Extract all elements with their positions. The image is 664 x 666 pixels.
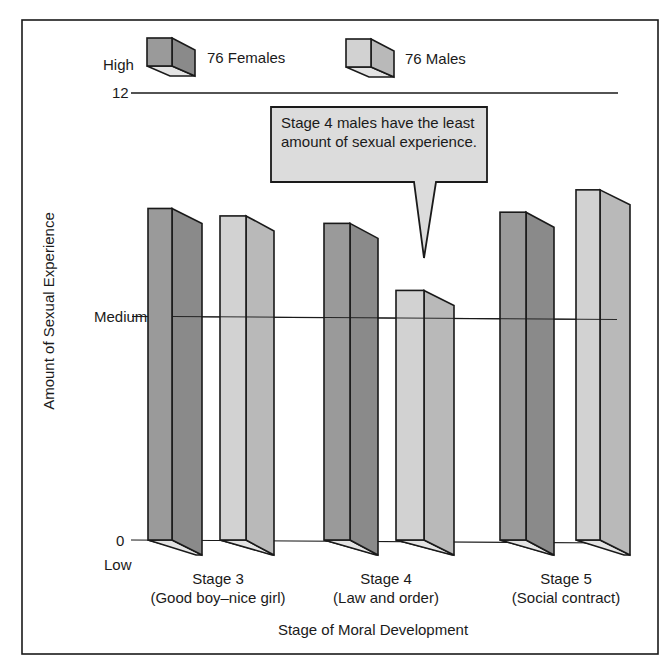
bar-side-face	[246, 216, 274, 555]
y-tick-0: 0	[116, 532, 124, 549]
legend-female-swatch-front	[147, 38, 172, 66]
bar-side-face	[600, 190, 630, 555]
category-desc-label: (Social contract)	[512, 588, 620, 607]
bar-front-face	[220, 216, 246, 540]
bar-side-face	[526, 212, 554, 555]
y-axis-title: Amount of Sexual Experience	[40, 212, 57, 410]
bar-front-face	[324, 223, 350, 540]
x-axis-title: Stage of Moral Development	[278, 621, 468, 638]
category-stage-4: Stage 4 (Law and order)	[333, 569, 439, 607]
bar-side-face	[350, 223, 378, 555]
y-low-label: Low	[104, 556, 132, 573]
category-desc-label: (Good boy–nice girl)	[150, 588, 285, 607]
bar-front-face	[576, 190, 600, 540]
callout-text: Stage 4 males have the least amount of s…	[281, 113, 486, 151]
category-stage-label: Stage 3	[150, 569, 285, 588]
bar-front-face	[500, 212, 526, 540]
legend-males-label: 76 Males	[405, 50, 466, 67]
bar-side-face	[172, 208, 202, 555]
y-tick-medium: Medium	[94, 308, 147, 325]
category-stage-label: Stage 5	[512, 569, 620, 588]
category-stage-5: Stage 5 (Social contract)	[512, 569, 620, 607]
category-stage-3: Stage 3 (Good boy–nice girl)	[150, 569, 285, 607]
chart-canvas	[0, 0, 664, 666]
legend-male-swatch-front	[346, 39, 371, 67]
category-desc-label: (Law and order)	[333, 588, 439, 607]
bar-side-face	[424, 290, 454, 555]
legend-high-label: High	[103, 56, 134, 73]
category-stage-label: Stage 4	[333, 569, 439, 588]
legend-females-label: 76 Females	[207, 49, 285, 66]
bar-front-face	[148, 208, 172, 540]
y-tick-12: 12	[112, 84, 129, 101]
bar-front-face	[396, 290, 424, 540]
